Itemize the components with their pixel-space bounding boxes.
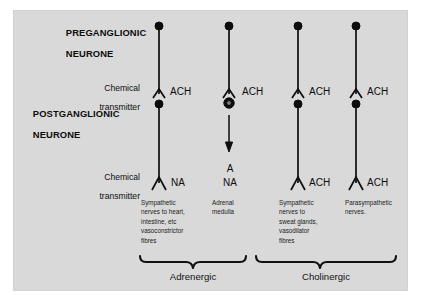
transmitter-effector-parasympathetic: ACH: [367, 177, 388, 188]
caption-parasympathetic: Parasympathetic nerves.: [345, 198, 407, 217]
transmitter-effector-sympathetic-adrenergic: NA: [171, 177, 185, 188]
transmitter-ganglion-sympathetic-adrenergic: ACH: [170, 86, 191, 97]
transmitter-effector-sympathetic-cholinergic: ACH: [309, 177, 330, 188]
group-label-adrenergic: Adrenergic: [140, 272, 246, 283]
group-label-cholinergic: Cholinergic: [256, 272, 396, 283]
chemical-transmitter-bottom-line-2: transmitter: [99, 191, 140, 201]
label-postganglionic-neurone: POSTGANGLIONIC NEURONE: [22, 98, 120, 152]
transmitter-effector-adrenal-medulla-noradrenaline: NA: [219, 177, 241, 188]
preganglionic-line-1: PREGANGLIONIC: [66, 27, 146, 38]
preganglionic-line-2: NEURONE: [66, 48, 114, 59]
transmitter-effector-adrenal-medulla-adrenaline: A: [223, 163, 237, 174]
postganglionic-line-1: POSTGANGLIONIC: [33, 108, 120, 119]
transmitter-ganglion-sympathetic-cholinergic: ACH: [309, 86, 330, 97]
chemical-transmitter-bottom-line-1: Chemical: [104, 172, 140, 182]
postganglionic-line-2: NEURONE: [33, 129, 81, 140]
label-preganglionic-neurone: PREGANGLIONIC NEURONE: [55, 17, 146, 71]
figure-root: PREGANGLIONIC NEURONE Chemical transmitt…: [0, 0, 421, 306]
transmitter-ganglion-parasympathetic: ACH: [367, 86, 388, 97]
caption-sympathetic-adrenergic: Sympathetic nerves to heart, intestine, …: [141, 198, 205, 245]
caption-sympathetic-cholinergic: Sympathetic nerves to sweat glands, vaso…: [279, 198, 341, 245]
chemical-transmitter-top-line-1: Chemical: [104, 83, 140, 93]
label-chemical-transmitter-bottom: Chemical transmitter: [68, 163, 140, 212]
transmitter-ganglion-adrenal-medulla: ACH: [242, 86, 263, 97]
caption-adrenal-medulla: Adrenal medulla: [212, 198, 270, 217]
